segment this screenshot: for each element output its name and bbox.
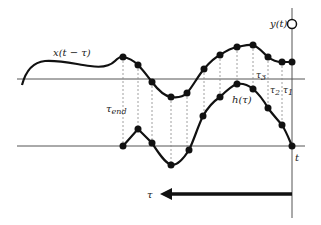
tau3-label: τ3 (256, 70, 266, 82)
impulse-response-label: h(τ) (232, 94, 252, 105)
convolution-diagram: x(t − τ) h(τ) y(t) t τ τend τ3 τ2 τ1 (0, 0, 321, 225)
sample-guides (123, 45, 282, 165)
tau2-label: τ2 (270, 85, 280, 97)
tau-end-label: τend (106, 103, 127, 116)
input-signal-label: x(t − τ) (53, 47, 91, 58)
impulse-response-curve (123, 84, 292, 165)
output-node-icon (288, 20, 297, 29)
tau-direction-arrow-icon (160, 188, 292, 200)
output-label: y(t) (269, 18, 288, 29)
time-label: t (295, 152, 300, 163)
tau-axis-label: τ (147, 189, 153, 200)
